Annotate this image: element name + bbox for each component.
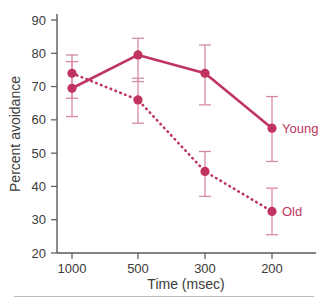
x-tick-label-200: 200 (261, 261, 283, 276)
data-point-old-500 (133, 95, 142, 104)
series-lines (72, 55, 272, 211)
series-label-old: Old (282, 204, 302, 219)
x-axis-tick-labels: 1000500300200 (58, 261, 283, 276)
y-tick-label-20: 20 (32, 246, 46, 261)
x-axis: 1000500300200 Time (msec) (57, 253, 316, 292)
series-line-old (72, 73, 272, 211)
y-tick-label-70: 70 (32, 79, 46, 94)
y-tick-label-60: 60 (32, 112, 46, 127)
data-point-old-1000 (67, 69, 76, 78)
x-axis-ticks (72, 253, 272, 259)
x-tick-label-500: 500 (127, 261, 149, 276)
x-axis-title: Time (msec) (147, 276, 224, 292)
y-tick-label-80: 80 (32, 46, 46, 61)
y-axis-ticks (51, 20, 57, 253)
bottom-divider (14, 296, 314, 297)
data-point-young-1000 (67, 84, 76, 93)
line-chart: 2030405060708090 Percent avoidance 10005… (0, 0, 328, 304)
data-point-young-500 (133, 50, 142, 59)
y-tick-label-50: 50 (32, 146, 46, 161)
chart-figure: 2030405060708090 Percent avoidance 10005… (0, 0, 328, 304)
x-tick-label-300: 300 (194, 261, 216, 276)
y-tick-label-30: 30 (32, 212, 46, 227)
data-point-young-200 (267, 124, 276, 133)
data-point-young-300 (200, 69, 209, 78)
series-line-young (72, 55, 272, 128)
series-labels: YoungOld (282, 121, 318, 219)
y-axis-tick-labels: 2030405060708090 (32, 13, 46, 261)
y-axis: 2030405060708090 Percent avoidance (7, 13, 57, 261)
y-axis-title: Percent avoidance (7, 76, 23, 192)
y-tick-label-40: 40 (32, 179, 46, 194)
error-bar-young-500 (132, 38, 144, 81)
y-tick-label-90: 90 (32, 13, 46, 28)
data-point-old-300 (200, 167, 209, 176)
x-tick-label-1000: 1000 (58, 261, 87, 276)
data-point-old-200 (267, 207, 276, 216)
series-label-young: Young (282, 121, 318, 136)
